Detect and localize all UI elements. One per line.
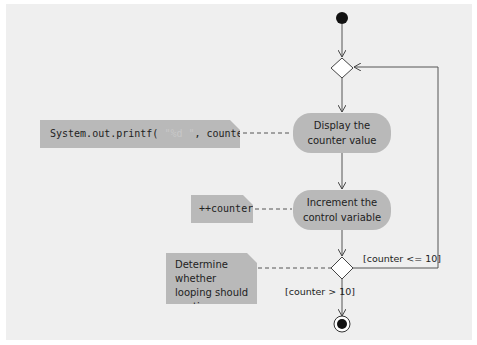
printf-format: "%d " xyxy=(158,128,194,139)
action-display-counter: Display the counter value xyxy=(293,113,391,153)
printf-note: System.out.printf( "%d ", counter ); xyxy=(40,120,240,148)
printf-prefix: System.out.printf( xyxy=(50,128,158,139)
increment-code: ++counter xyxy=(199,203,253,214)
action-increment-counter: Increment the control variable xyxy=(293,190,391,230)
action-label: control variable xyxy=(303,210,381,225)
decision-note: Determine whether looping should continu… xyxy=(166,253,257,304)
guard-exit: [counter > 10] xyxy=(285,286,355,297)
initial-node-icon xyxy=(336,12,348,24)
action-label: Increment the xyxy=(303,195,381,210)
note-line: looping should xyxy=(175,286,257,300)
note-line: Determine whether xyxy=(175,258,257,286)
guard-loop: [counter <= 10] xyxy=(363,253,441,264)
increment-note: ++counter xyxy=(191,195,253,223)
merge-node-icon xyxy=(331,58,353,78)
action-label: counter value xyxy=(308,133,377,148)
decision-node-icon xyxy=(331,257,353,279)
action-label: Display the xyxy=(308,118,377,133)
